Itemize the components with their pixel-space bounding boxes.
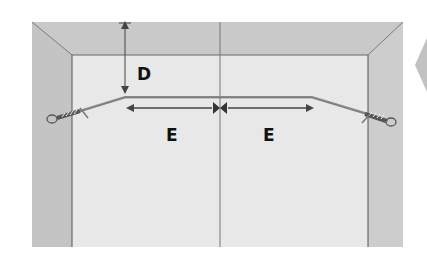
- label-e-right: E: [263, 125, 275, 145]
- diagram-canvas: D E E: [0, 0, 427, 256]
- right-side-wall: [368, 22, 403, 247]
- label-e-left: E: [166, 125, 178, 145]
- left-side-wall: [32, 22, 72, 247]
- room: [32, 22, 403, 247]
- ceiling: [32, 22, 403, 55]
- label-d: D: [137, 64, 151, 84]
- next-arrow-icon[interactable]: [415, 38, 427, 92]
